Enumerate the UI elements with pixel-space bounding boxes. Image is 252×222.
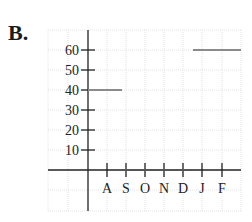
y-tick-label: 60	[65, 43, 79, 58]
step-chart: 60 50 40 30 20 10 A S O N D J F	[0, 0, 252, 222]
y-tick-label: 10	[65, 143, 79, 158]
y-tick-label: 40	[65, 83, 79, 98]
y-tick-label: 20	[65, 123, 79, 138]
x-tick-label: J	[199, 181, 205, 196]
x-tick-label: D	[178, 181, 188, 196]
x-tick-label: N	[159, 181, 169, 196]
y-tick-label: 30	[65, 103, 79, 118]
y-tick-labels: 60 50 40 30 20 10	[65, 43, 79, 158]
x-tick-label: A	[102, 181, 113, 196]
x-tick-label: O	[140, 181, 150, 196]
x-tick-label: S	[122, 181, 130, 196]
y-tick-label: 50	[65, 63, 79, 78]
x-tick-labels: A S O N D J F	[102, 181, 226, 196]
x-tick-label: F	[218, 181, 226, 196]
